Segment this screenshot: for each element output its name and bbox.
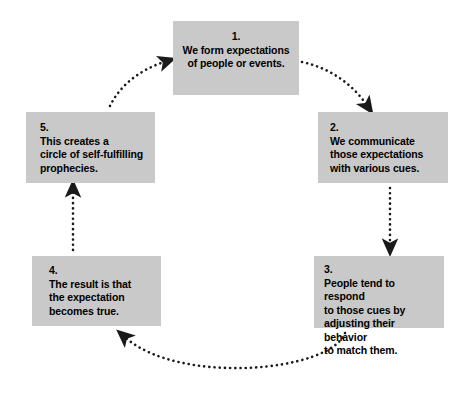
node-5-box[interactable]: 5. This creates a circle of self-fulfill… [26, 112, 155, 183]
node-4-text: The result is that the expectation becom… [49, 278, 152, 319]
node-1-box[interactable]: 1. We form expectations of people or eve… [173, 21, 299, 95]
arrow-3-to-4 [126, 333, 345, 368]
node-5-text: This creates a circle of self-fulfilling… [40, 135, 146, 176]
node-2-number: 2. [330, 121, 439, 135]
node-3-text: People tend to respond to those cues by … [324, 277, 435, 358]
node-3-box[interactable]: 3. People tend to respond to those cues … [314, 256, 444, 328]
node-3-number: 3. [324, 263, 435, 277]
arrow-5-to-1 [110, 62, 164, 106]
cycle-diagram: 1. We form expectations of people or eve… [0, 0, 473, 397]
node-5-number: 5. [40, 121, 146, 135]
node-2-box[interactable]: 2. We communicate those expectations wit… [318, 112, 448, 183]
node-4-box[interactable]: 4. The result is that the expectation be… [32, 256, 161, 326]
node-1-text: We form expectations of people or events… [182, 44, 290, 71]
node-4-number: 4. [49, 264, 152, 278]
node-2-text: We communicate those expectations with v… [330, 135, 439, 176]
node-1-number: 1. [182, 30, 290, 44]
arrow-1-to-2 [302, 62, 366, 104]
